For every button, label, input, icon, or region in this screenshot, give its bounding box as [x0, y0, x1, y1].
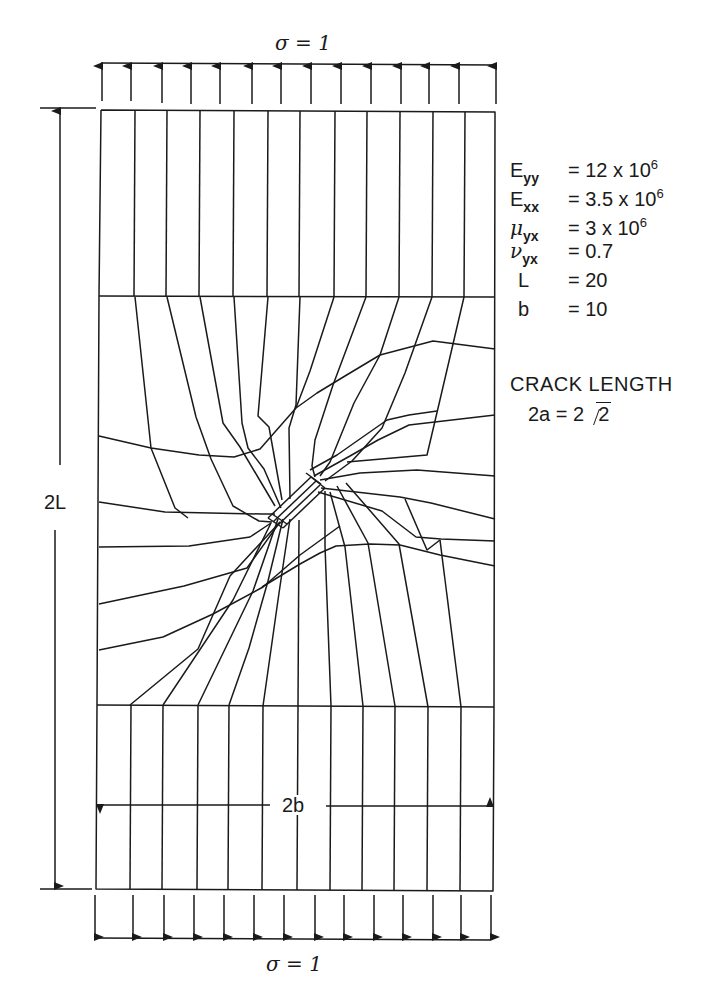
top-load-label: σ = 1 [275, 33, 331, 53]
crack-length-equation: 2a = 22 [528, 402, 611, 426]
material-properties-list: Eyy= 12 x 106 Exx= 3.5 x 106 μyx= 3 x 10… [510, 150, 664, 324]
bottom-load-arrows [94, 895, 491, 940]
bottom-load-label: σ = 1 [266, 954, 322, 974]
property-eyy: Eyy= 12 x 106 [510, 150, 664, 179]
top-load-arrows [101, 63, 497, 104]
height-dimension-label: 2L [42, 490, 68, 514]
sqrt-symbol: 2 [596, 402, 611, 426]
top-mesh-region [99, 110, 495, 297]
property-b: b= 10 [510, 295, 664, 324]
property-mu-yx: μyx= 3 x 106 [510, 208, 664, 237]
width-dimension-label: 2b [279, 795, 307, 815]
crack-elements[interactable] [268, 473, 325, 528]
crack-length-title: CRACK LENGTH [510, 373, 673, 396]
crack-mesh-region [99, 297, 495, 707]
property-nu-yx: νyx= 0.7 [510, 237, 664, 266]
property-l: L= 20 [510, 266, 664, 295]
property-exx: Exx= 3.5 x 106 [510, 179, 664, 208]
